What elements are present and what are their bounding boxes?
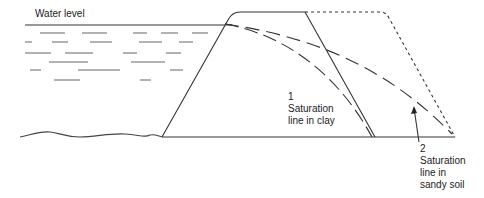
water-level-label: Water level: [35, 8, 85, 20]
label-2-line2: line in: [420, 167, 466, 179]
arrow-head-icon: [411, 106, 417, 114]
ground-line: [20, 132, 162, 137]
label-1-number: 1: [288, 91, 335, 103]
label-1-line1: Saturation: [288, 103, 335, 115]
water-ripples: [25, 33, 208, 80]
label-2-line1: Saturation: [420, 155, 466, 167]
saturation-line-sandy: [225, 24, 452, 134]
dam-diagram: [0, 0, 484, 198]
clay-dam-outline: [162, 12, 375, 137]
label-1-line2: line in clay: [288, 115, 335, 127]
label-2-number: 2: [420, 143, 466, 155]
label-1: 1 Saturation line in clay: [288, 91, 335, 127]
label-2-line3: sandy soil: [420, 179, 466, 191]
label-2: 2 Saturation line in sandy soil: [420, 143, 466, 191]
